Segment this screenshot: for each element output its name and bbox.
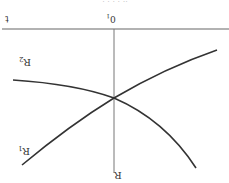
curve-r2-label: R2 [19, 55, 31, 68]
svg-text:t: t [5, 14, 9, 24]
svg-text:R2: R2 [19, 55, 31, 68]
r-axis-label: R [114, 170, 122, 181]
curve-r1-label: R1 [18, 144, 30, 157]
r1-r2-crossing-diagram: · · · · ·· t 01 R R2 R1 [0, 0, 229, 183]
t-axis-label: t [5, 14, 9, 24]
svg-text:R1: R1 [18, 144, 30, 157]
curve-r1 [22, 50, 217, 165]
curve-r2 [13, 80, 196, 168]
origin-label: 01 [106, 13, 116, 24]
svg-text:01: 01 [106, 13, 116, 24]
cut-off-caption: · · · · ·· [102, 0, 127, 6]
svg-text:R: R [114, 170, 122, 181]
